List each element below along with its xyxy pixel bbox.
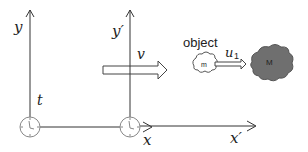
object-velocity-subscript: 1 [234, 51, 239, 61]
object-velocity-label: u [225, 45, 233, 60]
clock-icon [120, 117, 140, 137]
small-mass-label: m [201, 61, 207, 68]
clock-icon [20, 117, 40, 137]
x-axis-label: x [143, 131, 152, 149]
velocity-label: v [137, 46, 145, 62]
object-caption: object [183, 35, 218, 50]
object-velocity-arrow [215, 59, 246, 69]
reference-frames-diagram: y y′ t x x′ v object m u 1 M [0, 0, 308, 152]
time-label: t [37, 92, 43, 108]
s-prime-y-axis [126, 10, 134, 117]
large-mass-label: M [266, 58, 273, 67]
velocity-arrow [103, 61, 167, 79]
x-prime-axis-label: x′ [230, 129, 242, 147]
y-prime-axis-label: y′ [111, 22, 124, 40]
y-axis-label: y [13, 18, 23, 36]
s-y-axis [26, 10, 34, 117]
